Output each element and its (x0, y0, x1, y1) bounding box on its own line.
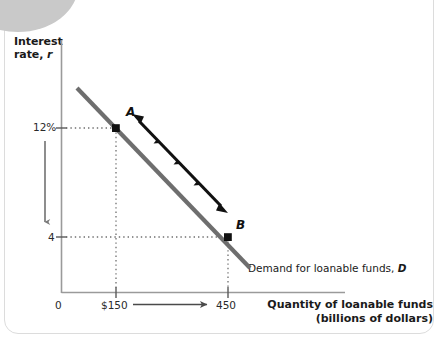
plot-area (0, 0, 444, 351)
data-point-b (224, 233, 232, 241)
data-point-a (112, 124, 120, 132)
figure-container: Interest rate, r 12% 4 0 $150 450 A B De… (0, 0, 444, 351)
